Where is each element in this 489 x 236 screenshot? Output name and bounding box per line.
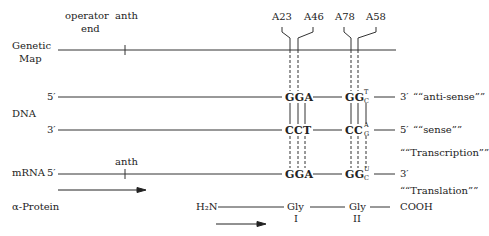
gly-residue-1-number: I bbox=[294, 214, 298, 224]
dna-top-codon2: GG bbox=[345, 92, 364, 103]
mrna-codon2-variant-sub: C bbox=[364, 175, 369, 182]
genetic-map-label-line1: Genetic bbox=[12, 41, 51, 51]
mutation-label-a46: A46 bbox=[304, 12, 324, 22]
mrna-label: mRNA bbox=[12, 168, 45, 178]
protein-label: α-Protein bbox=[12, 202, 59, 212]
operator-end-label: operator bbox=[65, 11, 109, 21]
dna-bottom-codon2-variant-sub: G bbox=[364, 131, 369, 138]
dna-top-codon2-variant-sub: C bbox=[364, 98, 369, 105]
gly-residue-2: Gly bbox=[349, 202, 366, 212]
genetic-map-label-line2: Map bbox=[19, 54, 42, 64]
mrna-anth-label: anth bbox=[115, 157, 138, 167]
sense-label: ““sense”” bbox=[413, 125, 462, 135]
anti-sense-label: ““anti-sense”” bbox=[413, 92, 485, 102]
c-terminus: COOH bbox=[400, 202, 433, 212]
end-label: end bbox=[81, 24, 100, 34]
mrna-5prime: 5′ bbox=[47, 168, 56, 178]
gly-residue-1: Gly bbox=[287, 202, 304, 212]
dna-bottom-codon2: CC bbox=[345, 125, 363, 136]
mrna-3prime: 3′ bbox=[400, 169, 409, 179]
gly-residue-2-number: II bbox=[353, 214, 361, 224]
dna-top-3prime: 3′ bbox=[400, 92, 409, 102]
mutation-label-a23: A23 bbox=[272, 12, 292, 22]
dna-top-codon1: GGA bbox=[285, 92, 313, 103]
dna-bottom-3prime: 3′ bbox=[47, 125, 56, 135]
a46-leader bbox=[298, 27, 313, 50]
anth-label: anth bbox=[115, 11, 138, 21]
a23-leader bbox=[282, 27, 290, 50]
mrna-codon1: GGA bbox=[285, 169, 313, 180]
a78-leader bbox=[344, 27, 351, 50]
dna-label: DNA bbox=[12, 109, 36, 119]
translation-label: ““Translation”” bbox=[400, 186, 478, 196]
a58-leader bbox=[358, 27, 376, 50]
transcription-label: ““Transcription”” bbox=[400, 148, 489, 158]
dna-bottom-codon2-variant-sup: A bbox=[364, 122, 369, 129]
dna-top-5prime: 5′ bbox=[47, 92, 56, 102]
mrna-codon2: GG bbox=[345, 169, 364, 180]
n-terminus: H₂N bbox=[196, 202, 217, 212]
dna-bottom-codon1: CCT bbox=[285, 125, 312, 136]
dna-top-codon2-variant-sup: T bbox=[364, 89, 368, 96]
dna-bottom-5prime: 5′ bbox=[400, 125, 409, 135]
mutation-label-a78: A78 bbox=[335, 12, 355, 22]
mutation-label-a58: A58 bbox=[366, 12, 386, 22]
mrna-codon2-variant-sup: U bbox=[364, 166, 369, 173]
